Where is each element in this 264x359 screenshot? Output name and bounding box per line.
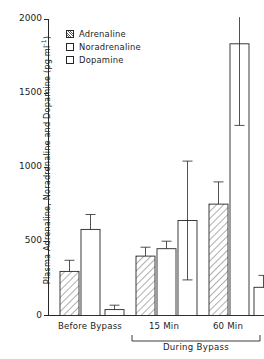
y-tick-label-0: 0	[12, 311, 42, 320]
bar-adrenaline-15min	[136, 247, 155, 315]
legend-item-adrenaline: Adrenaline	[66, 27, 186, 40]
x-group-label-15min: 15 Min	[132, 321, 196, 331]
legend-item-dopamine: Dopamine	[66, 53, 186, 66]
legend-swatch-adrenaline-icon	[66, 30, 74, 38]
chart-canvas	[48, 19, 260, 349]
y-tick-label-2000: 2000	[12, 14, 42, 23]
chart-figure: Plasma Adrenaline, Noradrenaline and Dop…	[0, 0, 264, 359]
y-tick-label-group: 2000 1500 1000 500 0	[8, 0, 42, 359]
bar-dopamine-15min	[178, 161, 197, 315]
bar-noradrenaline-before	[81, 215, 100, 316]
bar-noradrenaline-60min	[230, 17, 249, 315]
bar-adrenaline-60min	[209, 182, 228, 316]
y-tick-label-1500: 1500	[12, 88, 42, 97]
legend-swatch-noradrenaline-icon	[66, 43, 74, 51]
x-bracket-label-during-bypass: During Bypass	[132, 342, 260, 352]
y-tick-label-500: 500	[12, 236, 42, 245]
bar-dopamine-60min	[254, 275, 264, 315]
legend-label-noradrenaline: Noradrenaline	[79, 42, 141, 52]
chart-legend: Adrenaline Noradrenaline Dopamine	[66, 27, 186, 66]
x-group-label-before-bypass: Before Bypass	[48, 321, 132, 331]
legend-item-noradrenaline: Noradrenaline	[66, 40, 186, 53]
during-bypass-bracket	[132, 335, 260, 341]
bar-noradrenaline-15min	[157, 241, 176, 315]
legend-label-adrenaline: Adrenaline	[79, 29, 126, 39]
bar-dopamine-before	[105, 305, 124, 315]
x-group-label-60min: 60 Min	[196, 321, 260, 331]
y-tick-label-1000: 1000	[12, 162, 42, 171]
legend-swatch-dopamine-icon	[66, 56, 74, 64]
bar-adrenaline-before	[60, 260, 79, 315]
legend-label-dopamine: Dopamine	[79, 55, 124, 65]
